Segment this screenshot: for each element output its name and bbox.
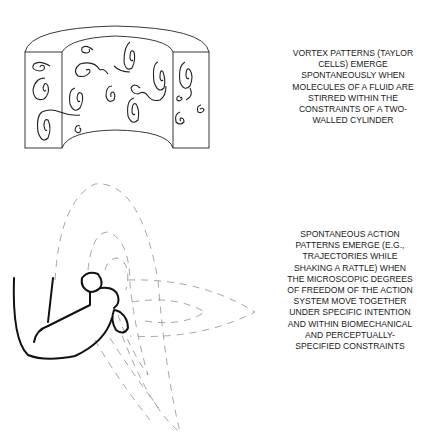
action-patterns-caption: SPONTANEOUS ACTION PATTERNS EMERGE (E.G.…: [262, 229, 438, 352]
taylor-cells-illustration: [0, 0, 230, 160]
rattle-trajectory-diagram: [0, 170, 260, 439]
action-patterns-illustration: [0, 170, 260, 439]
taylor-cells-caption: VORTEX PATTERNS (TAYLOR CELLS) EMERGE SP…: [268, 48, 438, 126]
vortex-spirals: [33, 42, 204, 140]
cylinder-diagram: [0, 0, 230, 160]
arm-and-hand: [14, 273, 128, 359]
